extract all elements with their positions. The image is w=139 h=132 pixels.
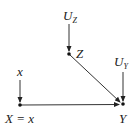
label-uy: UY [114, 54, 129, 71]
label-x-intervention: x [16, 64, 23, 79]
node-X-dot [18, 103, 22, 107]
causal-diagram: UZ Z x X = x UY Y [0, 0, 139, 132]
edge-z-to-y [70, 55, 120, 102]
label-uz: UZ [63, 8, 77, 25]
label-z: Z [76, 46, 84, 61]
label-y: Y [119, 111, 128, 126]
node-z-dot [67, 52, 71, 56]
node-y-dot [121, 102, 125, 106]
label-X-equals-x: X = x [4, 111, 34, 126]
edge-X-to-y [21, 105, 119, 106]
